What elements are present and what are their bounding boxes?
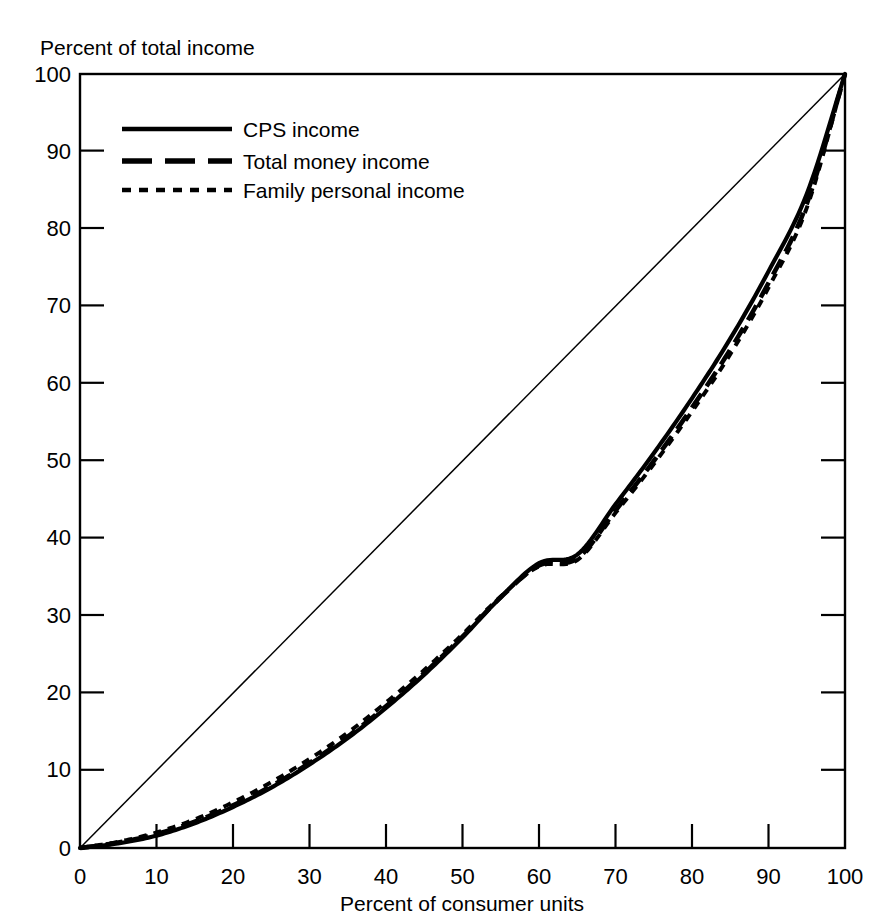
y-axis-title: Percent of total income [40,36,255,59]
y-axis-tick-labels: 100 90 80 70 60 50 40 30 20 10 0 [34,62,71,861]
y-tick-label: 30 [47,603,71,628]
y-tick-label: 60 [47,371,71,396]
y-tick-label: 90 [47,139,71,164]
y-tick-label: 80 [47,216,71,241]
y-tick-label: 10 [47,757,71,782]
legend-label-family-personal-income: Family personal income [243,179,465,202]
x-axis-title: Percent of consumer units [340,892,584,915]
x-tick-label: 40 [374,864,398,889]
x-tick-label: 0 [74,864,86,889]
y-tick-label: 100 [34,62,71,87]
y-tick-label: 50 [47,448,71,473]
right-axis-ticks [821,151,845,770]
legend-label-total-money-income: Total money income [243,150,430,173]
x-tick-label: 20 [221,864,245,889]
x-axis-ticks [157,824,769,848]
x-tick-label: 90 [756,864,780,889]
x-tick-label: 30 [297,864,321,889]
y-tick-label: 40 [47,525,71,550]
legend-label-cps-income: CPS income [243,118,360,141]
x-axis-tick-labels: 0 10 20 30 40 50 60 70 80 90 100 [74,864,863,889]
x-tick-label: 100 [827,864,864,889]
x-tick-label: 70 [603,864,627,889]
chart-canvas: Percent of total income [0,0,893,921]
y-tick-label: 0 [59,836,71,861]
y-tick-label: 70 [47,293,71,318]
chart-legend: CPS income Total money income Family per… [122,118,465,202]
x-tick-label: 10 [144,864,168,889]
y-axis-ticks [80,151,104,770]
y-tick-label: 20 [47,680,71,705]
lorenz-curve-figure: Percent of total income [0,0,893,921]
x-tick-label: 50 [450,864,474,889]
x-tick-label: 80 [680,864,704,889]
x-tick-label: 60 [527,864,551,889]
